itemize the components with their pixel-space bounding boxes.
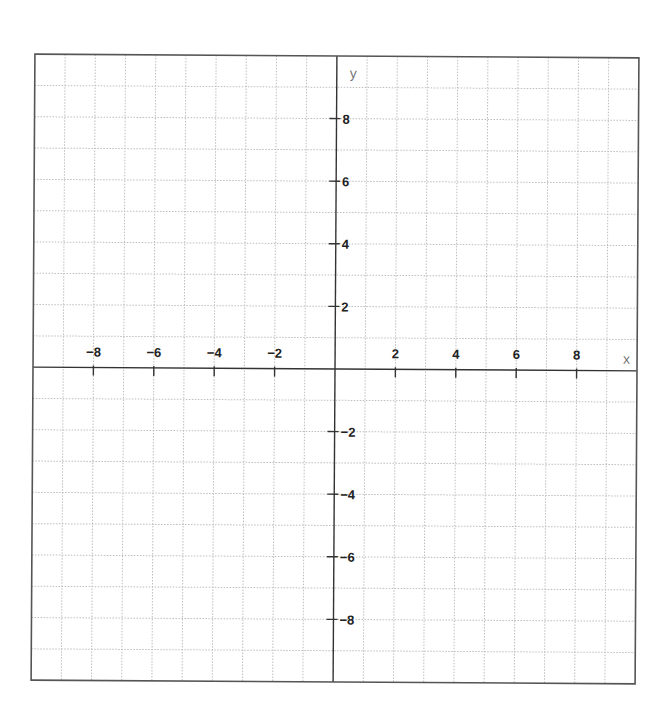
y-tick-label: −6 <box>340 550 355 565</box>
y-tick-label: −4 <box>340 487 356 502</box>
coordinate-grid-svg: −8−6−4−224688642−2−4−6−8 x y <box>0 0 672 724</box>
y-tick-label: 2 <box>341 299 348 314</box>
y-tick-label: 8 <box>342 112 349 127</box>
x-tick-label: 8 <box>573 347 580 362</box>
x-tick-label: −8 <box>86 344 101 359</box>
x-axis-label: x <box>623 351 630 367</box>
coordinate-plane: −8−6−4−224688642−2−4−6−8 x y <box>0 0 672 724</box>
y-tick-label: 6 <box>342 174 349 189</box>
x-tick-label: −6 <box>146 345 161 360</box>
x-tick-label: 6 <box>513 347 520 362</box>
y-tick-label: −2 <box>341 425 356 440</box>
x-tick-label: 4 <box>452 347 460 362</box>
y-tick-label: 4 <box>342 237 350 252</box>
y-axis-label: y <box>350 65 357 81</box>
x-tick-label: 2 <box>392 346 399 361</box>
y-tick-label: −8 <box>339 612 354 627</box>
x-tick-label: −4 <box>207 345 223 360</box>
x-tick-label: −2 <box>267 346 282 361</box>
